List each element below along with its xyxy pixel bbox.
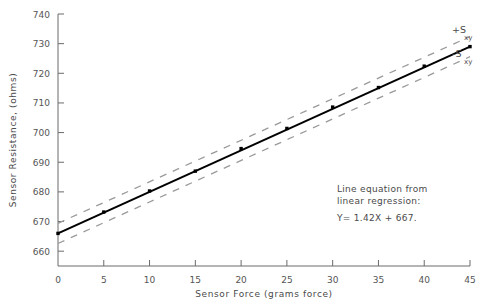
x-tick-label: 5	[101, 275, 107, 285]
x-tick-label: 0	[55, 275, 61, 285]
y-tick-label: 700	[33, 128, 50, 138]
x-tick-label: 15	[190, 275, 201, 285]
data-point-marker	[148, 189, 151, 192]
data-point-marker	[331, 105, 334, 108]
y-tick-label: 710	[33, 98, 50, 108]
data-point-marker	[194, 169, 197, 172]
data-point-marker	[377, 86, 380, 89]
data-point-marker	[285, 127, 288, 130]
data-point-marker	[102, 210, 105, 213]
legend-plus-sxy-subscript: xy	[464, 34, 472, 42]
data-point-marker	[239, 147, 242, 150]
y-tick-label: 690	[33, 158, 50, 168]
x-axis-title: Sensor Force (grams force)	[195, 289, 332, 299]
data-point-marker	[468, 45, 471, 48]
y-axis-title: Sensor Resistance, (ohms)	[8, 73, 18, 208]
chart-canvas: 660670680690700710720730740 051015202530…	[0, 0, 487, 307]
y-tick-label: 730	[33, 39, 50, 49]
x-tick-label: 45	[464, 275, 475, 285]
chart-background	[0, 0, 487, 307]
annotation-line-1: Line equation from	[337, 184, 428, 194]
annotation-line-3: Y= 1.42X + 667.	[336, 213, 417, 223]
x-tick-label: 10	[144, 275, 156, 285]
y-tick-label: 740	[33, 10, 50, 20]
x-tick-label: 25	[281, 275, 292, 285]
legend-minus-sxy-subscript: xy	[464, 58, 472, 66]
data-point-marker	[56, 232, 59, 235]
y-axis-tick-labels: 660670680690700710720730740	[33, 10, 50, 257]
x-tick-label: 20	[235, 275, 247, 285]
y-tick-label: 720	[33, 69, 50, 79]
data-point-marker	[423, 64, 426, 67]
x-tick-label: 30	[327, 275, 339, 285]
y-tick-label: 670	[33, 217, 50, 227]
y-tick-label: 680	[33, 187, 50, 197]
y-tick-label: 660	[33, 247, 50, 257]
x-tick-label: 40	[418, 275, 430, 285]
annotation-line-2: linear regression:	[337, 196, 421, 206]
x-tick-label: 35	[373, 275, 384, 285]
regression-annotation: Line equation from linear regression: Y=…	[336, 184, 428, 223]
legend-minus-sxy-label: -S	[452, 48, 461, 59]
chart-figure: 660670680690700710720730740 051015202530…	[0, 0, 487, 307]
